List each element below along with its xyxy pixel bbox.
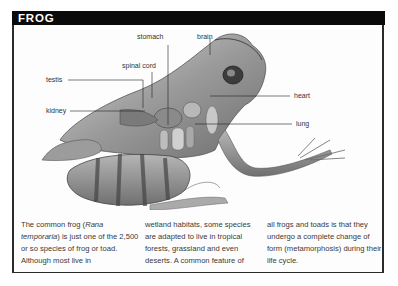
panel-title: FROG (18, 11, 54, 25)
frog-arm (218, 130, 332, 176)
frog-leg (67, 154, 190, 205)
label-brain: brain (197, 33, 213, 41)
caption-text: The common frog ( (21, 220, 85, 229)
caption-column-3: all frogs and toads is that they undergo… (267, 219, 385, 267)
frog-anatomy-illustration (14, 25, 382, 210)
label-stomach: stomach (137, 33, 163, 41)
label-kidney: kidney (46, 107, 66, 115)
label-lung: lung (296, 120, 309, 128)
label-heart: heart (294, 92, 310, 100)
title-bar: FROG (12, 11, 385, 25)
label-testis: testis (46, 76, 62, 84)
caption-column-2: wetland habitats, some species are adapt… (145, 219, 263, 267)
caption-column-1: The common frog (Rana temporaria) is jus… (21, 219, 139, 267)
label-spinal-cord: spinal cord (122, 62, 156, 70)
